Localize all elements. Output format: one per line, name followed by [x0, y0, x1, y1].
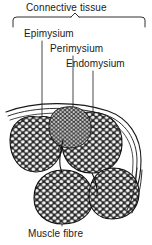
figure-root: Connective tissue Epimysium Perimysium E…: [0, 0, 152, 245]
fascicle-lower-right: [89, 168, 139, 219]
fascicle-top-centre: [49, 107, 91, 148]
label-muscle-fibre: Muscle fibre: [28, 228, 83, 239]
label-epimysium: Epimysium: [24, 28, 74, 39]
label-connective-tissue: Connective tissue: [26, 2, 107, 13]
connective-tissue-bracket: [13, 13, 145, 27]
label-endomysium: Endomysium: [66, 58, 125, 69]
fascicle-group: [10, 107, 140, 224]
muscle-cross-section-illustration: [0, 0, 152, 245]
fascicle-lower-left: [34, 170, 93, 224]
label-perimysium: Perimysium: [50, 43, 103, 54]
